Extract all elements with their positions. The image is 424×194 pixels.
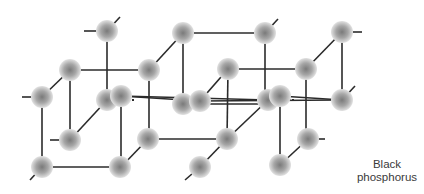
phosphorus-atom bbox=[59, 59, 81, 81]
label-line-2: phosphorus bbox=[352, 171, 422, 184]
phosphorus-atom bbox=[189, 156, 211, 178]
phosphorus-atom bbox=[331, 89, 353, 111]
phosphorus-atom bbox=[297, 128, 319, 150]
phosphorus-atom bbox=[331, 21, 353, 43]
phosphorus-atom bbox=[269, 85, 291, 107]
phosphorus-atom bbox=[59, 129, 81, 151]
phosphorus-atom bbox=[217, 58, 239, 80]
phosphorus-atoms bbox=[31, 20, 353, 178]
phosphorus-atom bbox=[189, 90, 211, 112]
label-line-1: Black bbox=[352, 158, 422, 171]
phosphorus-atom bbox=[96, 20, 118, 42]
phosphorus-atom bbox=[31, 156, 53, 178]
phosphorus-atom bbox=[269, 154, 291, 176]
material-label: Black phosphorus bbox=[352, 158, 422, 184]
phosphorus-atom bbox=[110, 85, 132, 107]
phosphorus-atom bbox=[109, 156, 131, 178]
phosphorus-atom bbox=[137, 128, 159, 150]
phosphorus-atom bbox=[138, 59, 160, 81]
phosphorus-atom bbox=[31, 86, 53, 108]
phosphorus-atom bbox=[216, 128, 238, 150]
phosphorus-atom bbox=[172, 22, 194, 44]
phosphorus-atom bbox=[254, 22, 276, 44]
phosphorus-atom bbox=[295, 58, 317, 80]
